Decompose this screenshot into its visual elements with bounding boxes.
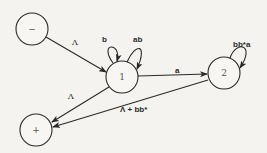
state-diagram: − 1 2 + Λ b ab a bb*a Λ Λ + bb* — [0, 0, 267, 153]
node-1-label: 1 — [119, 72, 125, 82]
label-loop-b: b — [102, 35, 107, 44]
label-start-to-1: Λ — [71, 38, 78, 47]
node-final-label: + — [32, 125, 40, 135]
label-loop-2: bb*a — [233, 40, 251, 49]
label-1-to-final: Λ — [67, 92, 74, 101]
node-2: 2 — [208, 57, 240, 89]
edge-1-to-2 — [138, 74, 207, 76]
label-2-to-final: Λ + bb* — [120, 105, 148, 114]
label-loop-ab: ab — [133, 35, 142, 44]
label-1-to-2: a — [175, 66, 180, 75]
node-start: − — [16, 13, 48, 45]
loop-1-b — [108, 47, 118, 63]
node-start-label: − — [28, 24, 36, 34]
edge-1-to-final — [52, 87, 109, 122]
node-2-label: 2 — [221, 68, 227, 78]
node-1: 1 — [106, 61, 138, 93]
node-final: + — [20, 114, 52, 146]
